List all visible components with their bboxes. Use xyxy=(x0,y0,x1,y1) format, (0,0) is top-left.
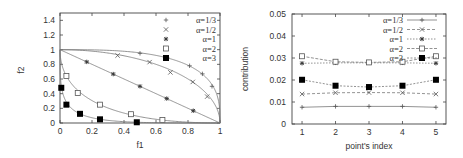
data-point-marker xyxy=(400,104,404,108)
y-tick-label: 0.01 xyxy=(269,97,286,107)
data-point-marker xyxy=(138,84,142,88)
legend-marker xyxy=(420,18,424,22)
legend-label: α=1/3 xyxy=(196,15,216,25)
x-tick-label: 2 xyxy=(333,127,338,137)
data-point-marker xyxy=(75,90,80,95)
data-point-marker xyxy=(333,83,339,89)
data-point-marker xyxy=(134,119,140,125)
y-tick-label: 0.05 xyxy=(269,9,286,19)
x-axis-label: f1 xyxy=(136,140,143,150)
data-point-marker xyxy=(333,59,338,64)
data-point-marker xyxy=(333,104,337,108)
legend-marker xyxy=(420,37,424,41)
data-point-marker xyxy=(367,60,372,65)
data-point-marker xyxy=(138,51,142,55)
legend-marker xyxy=(164,46,169,51)
pareto-front-chart: 00.20.40.60.8100.20.40.60.811.21.4f1f2α=… xyxy=(16,13,223,150)
data-point-marker xyxy=(299,77,305,83)
y-tick-label: 0.4 xyxy=(43,89,55,99)
legend: α=1/3α=1/2α=1α=2α=3 xyxy=(163,15,216,63)
y-tick-label: 0.2 xyxy=(43,103,55,113)
y-tick-label: 1 xyxy=(50,45,55,55)
x-tick-label: 4 xyxy=(400,127,405,137)
legend-marker xyxy=(419,55,425,61)
legend-marker xyxy=(164,27,168,31)
data-point-marker xyxy=(300,54,305,59)
data-point-marker xyxy=(98,102,103,107)
x-tick-label: 0.6 xyxy=(150,126,162,136)
legend-label: α=1 xyxy=(203,34,217,44)
y-tick-label: 0.02 xyxy=(269,75,286,85)
data-point-marker xyxy=(165,96,169,100)
legend-label: α=1/2 xyxy=(383,25,403,35)
figure: 00.20.40.60.8100.20.40.60.811.21.4f1f2α=… xyxy=(0,0,463,158)
legend-label: α=2 xyxy=(390,44,404,54)
y-tick-label: 0.8 xyxy=(43,59,55,69)
legend-label: α=1/3 xyxy=(383,15,403,25)
data-point-marker xyxy=(85,60,89,64)
data-point-marker xyxy=(300,61,304,65)
data-point-marker xyxy=(115,53,119,57)
y-axis-label: contribution xyxy=(240,47,250,91)
data-point-marker xyxy=(399,83,405,89)
y-tick-label: 0 xyxy=(50,118,55,128)
legend-label: α=2 xyxy=(203,44,217,54)
legend-marker xyxy=(164,18,168,22)
y-tick-label: 0.03 xyxy=(269,53,286,63)
data-point-marker xyxy=(168,70,172,74)
data-point-marker xyxy=(191,80,195,84)
legend-label: α=3 xyxy=(203,53,217,63)
data-point-marker xyxy=(97,116,103,122)
data-point-marker xyxy=(366,84,372,90)
x-tick-label: 0.4 xyxy=(118,126,130,136)
y-tick-label: 0.6 xyxy=(43,74,55,84)
data-point-marker xyxy=(367,104,371,108)
legend-label: α=1/2 xyxy=(196,25,216,35)
data-point-marker xyxy=(63,102,69,108)
data-point-marker xyxy=(77,111,83,117)
legend: α=1/3α=1/2α=1α=2α=3 xyxy=(383,15,437,63)
data-point-marker xyxy=(434,61,438,65)
legend-marker xyxy=(164,37,168,41)
y-axis-label: f2 xyxy=(16,66,26,73)
contribution-chart: 1234500.010.020.030.040.05point's indexc… xyxy=(240,9,446,151)
data-point-marker xyxy=(433,77,439,83)
x-tick-label: 5 xyxy=(434,127,439,137)
x-tick-label: 0.2 xyxy=(86,126,98,136)
data-point-marker xyxy=(187,64,191,68)
x-tick-label: 1 xyxy=(218,126,223,136)
x-axis-label: point's index xyxy=(346,141,394,151)
x-tick-label: 3 xyxy=(367,127,372,137)
x-tick-label: 0 xyxy=(58,126,63,136)
x-tick-label: 1 xyxy=(300,127,305,137)
y-tick-label: 1.2 xyxy=(43,30,55,40)
y-tick-label: 0.04 xyxy=(269,31,286,41)
data-point-marker xyxy=(205,94,209,98)
legend-label: α=1 xyxy=(390,34,404,44)
data-point-marker xyxy=(111,72,115,76)
data-point-marker xyxy=(58,85,64,91)
legend-marker xyxy=(163,55,169,61)
data-point-marker xyxy=(300,105,304,109)
data-point-marker xyxy=(434,105,438,109)
data-point-marker xyxy=(160,118,165,123)
legend-marker xyxy=(420,46,425,51)
data-point-marker xyxy=(191,109,195,113)
data-point-marker xyxy=(64,74,69,79)
legend-label: α=3 xyxy=(390,53,404,63)
x-tick-label: 0.8 xyxy=(182,126,194,136)
data-point-marker xyxy=(129,112,134,117)
y-tick-label: 1.4 xyxy=(43,15,55,25)
y-tick-label: 0 xyxy=(281,119,286,129)
